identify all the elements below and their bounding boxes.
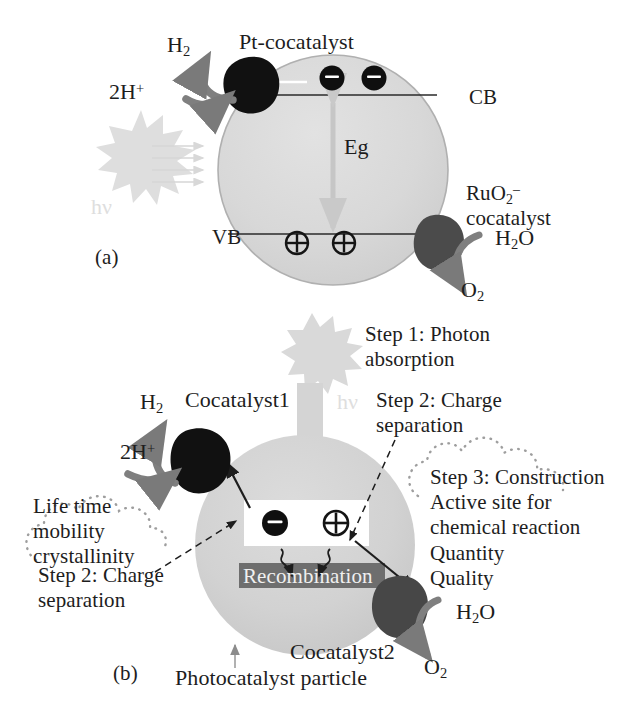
panel-b-letter: (b) — [113, 662, 138, 686]
panel-a-vb-label: VB — [212, 226, 241, 250]
panel-a-letter: (a) — [95, 246, 119, 270]
panel-a-proton-label: 2H+ — [109, 80, 144, 105]
recombination-label: Recombination — [243, 565, 373, 589]
panel-b-properties-cloud-label: Life timemobilitycrystallinity — [33, 494, 135, 570]
panel-a-photon-label: hν — [91, 195, 112, 220]
photocatalyst-particle-label: Photocatalyst particle — [175, 666, 367, 691]
electron-a-1 — [320, 66, 345, 91]
panel-a-graphics — [96, 55, 479, 288]
photon-star-b — [281, 313, 363, 394]
hole-b — [324, 511, 348, 535]
panel-b-photon-label: hν — [337, 390, 358, 415]
panel-b-water-label: H2O — [456, 600, 495, 626]
panel-a-oxygen-label: O2 — [461, 278, 484, 304]
panel-b-step3-label: Step 3: ConstructionActive site forchemi… — [430, 465, 605, 591]
panel-b-step2-top-label: Step 2: Chargeseparation — [376, 388, 502, 438]
panel-b-step2-bottom-label: Step 2: Chargeseparation — [38, 563, 164, 613]
panel-a-ruo2-cocatalyst-label: RuO2–cocatalyst — [466, 182, 551, 231]
h-plus-arrow-b — [128, 474, 174, 480]
panel-a-h2-label: H2 — [167, 33, 190, 59]
hole-a-1 — [286, 232, 308, 254]
pt-cocatalyst-blob — [223, 57, 279, 114]
h-plus-arrow-a — [186, 97, 228, 105]
panel-a-bandgap-label: Eg — [344, 135, 369, 160]
electron-b — [262, 510, 288, 536]
electron-a-2 — [362, 66, 387, 91]
hole-a-2 — [333, 232, 355, 254]
panel-b-proton-label: 2H+ — [120, 440, 155, 465]
panel-b-h2-label: H2 — [140, 390, 163, 416]
panel-b-cocatalyst2-label: Cocatalyst2 — [290, 640, 395, 665]
panel-b-step1-label: Step 1: Photonabsorption — [365, 322, 490, 372]
panel-a-pt-cocatalyst-label: Pt-cocatalyst — [239, 30, 354, 55]
panel-a-water-label: H2O — [495, 226, 534, 252]
panel-a-cb-label: CB — [469, 86, 497, 110]
panel-b-cocatalyst1-label: Cocatalyst1 — [185, 388, 290, 413]
photocatalysis-figure: H2 2H+ Pt-cocatalyst CB VB Eg hν RuO2–co… — [0, 0, 634, 706]
panel-b-oxygen-label: O2 — [424, 655, 447, 681]
